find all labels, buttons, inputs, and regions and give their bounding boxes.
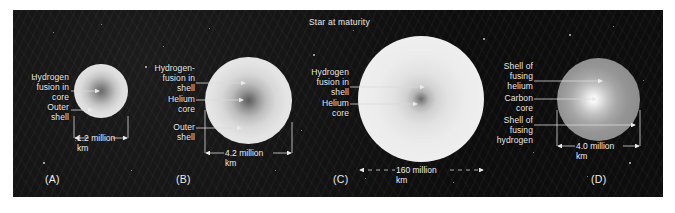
background-star bbox=[533, 152, 534, 153]
measure-label-c: 160 million km bbox=[396, 165, 450, 185]
label-outer-shell-b: Outer shell bbox=[137, 122, 195, 142]
background-star bbox=[587, 176, 588, 177]
starfield-panel: Star at maturity bbox=[13, 10, 663, 197]
measure-label-a: 1.2 million km bbox=[77, 133, 127, 153]
background-star bbox=[43, 162, 45, 164]
label-hydrogen-fusion-shell-b: Hydrogen- fusion in shell bbox=[137, 63, 195, 93]
star-sphere-d bbox=[557, 58, 640, 141]
background-star bbox=[629, 162, 631, 164]
background-star bbox=[643, 80, 644, 81]
background-star bbox=[53, 32, 54, 33]
background-star bbox=[483, 38, 485, 40]
background-star bbox=[569, 34, 571, 36]
background-star bbox=[453, 182, 454, 183]
background-star bbox=[131, 170, 132, 171]
background-star bbox=[613, 26, 614, 27]
measure-label-d: 4.0 million km bbox=[576, 141, 628, 161]
measure-label-b: 4.2 million km bbox=[225, 148, 277, 168]
star-sphere-b bbox=[205, 57, 292, 144]
star-sphere-c bbox=[358, 36, 484, 162]
background-star bbox=[209, 28, 210, 29]
label-outer-shell-a: Outer shell bbox=[15, 102, 69, 122]
background-star bbox=[313, 54, 315, 56]
label-shell-fusing-hydrogen: Shell of fusing hydrogen bbox=[475, 115, 533, 145]
panel-letter-d: (D) bbox=[591, 173, 606, 185]
label-helium-core-c: Helium core bbox=[291, 98, 349, 118]
panel-letter-a: (A) bbox=[45, 173, 60, 185]
label-hydrogen-fusion-core: Hydrogen fusion in core bbox=[15, 72, 69, 102]
label-carbon-core: Carbon core bbox=[475, 93, 533, 113]
background-star bbox=[101, 24, 102, 25]
panel-letter-b: (B) bbox=[176, 173, 191, 185]
label-shell-fusing-helium: Shell of fusing helium bbox=[475, 61, 533, 91]
stellar-evolution-figure: Star at maturity bbox=[0, 0, 675, 213]
background-star bbox=[75, 140, 76, 141]
background-star bbox=[301, 130, 302, 131]
figure-title: Star at maturity bbox=[309, 17, 370, 27]
background-star bbox=[275, 170, 276, 171]
star-sphere-a bbox=[74, 64, 128, 118]
panel-letter-c: (C) bbox=[333, 173, 348, 185]
label-helium-core-b: Helium core bbox=[137, 94, 195, 114]
label-hydrogen-fusion-shell-c: Hydrogen fusion in shell bbox=[291, 67, 349, 97]
background-star bbox=[365, 178, 366, 179]
background-star bbox=[353, 30, 354, 31]
background-star bbox=[163, 46, 164, 47]
